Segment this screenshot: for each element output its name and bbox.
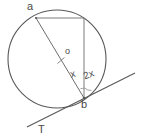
geometry-figure: a b o T x 2x xyxy=(0,0,141,140)
label-center-o: o xyxy=(65,47,70,56)
label-point-a: a xyxy=(27,1,33,12)
center-tick-mark xyxy=(58,58,65,64)
label-tangent-t: T xyxy=(38,124,45,135)
label-point-b: b xyxy=(81,99,87,110)
diameter-a-to-b xyxy=(36,18,84,98)
angle-arc-x xyxy=(81,88,85,89)
point-a-marker xyxy=(35,17,37,19)
circle-shape xyxy=(8,10,106,108)
angle-arc-2x xyxy=(85,88,92,91)
